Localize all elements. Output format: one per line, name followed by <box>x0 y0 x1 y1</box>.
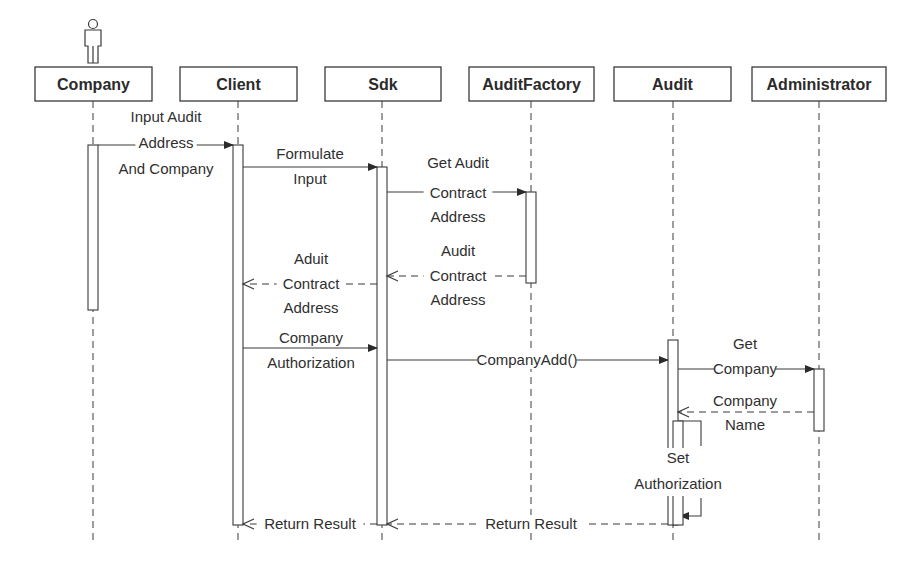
message-m6: CompanyAuthorization <box>243 329 377 371</box>
participant-label: Sdk <box>368 76 397 93</box>
activation-bar-client <box>233 145 243 525</box>
message-m8: GetCompany <box>678 335 814 378</box>
sequence-diagram: CompanyClientSdkAuditFactoryAuditAdminis… <box>0 0 924 572</box>
message-m10: SetAuthorization <box>620 421 740 525</box>
participant-company: Company <box>35 67 152 101</box>
message-label: Return Result <box>264 515 357 532</box>
message-label: Address <box>430 208 485 225</box>
message-m9: CompanyName <box>678 392 814 433</box>
activation-bar-sdk <box>377 167 387 525</box>
participant-label: AuditFactory <box>482 76 581 93</box>
participant-label: Client <box>216 76 261 93</box>
message-m3: Get AuditContractAddress <box>387 154 526 225</box>
message-label: Company <box>713 392 778 409</box>
participant-label: Company <box>57 76 130 93</box>
message-m12: Return Result <box>243 515 377 533</box>
message-m2: FormulateInput <box>243 145 377 187</box>
message-label: Set <box>667 449 690 466</box>
message-label: Address <box>138 134 193 151</box>
message-label: Address <box>283 299 338 316</box>
message-label: Contract <box>430 267 488 284</box>
message-label: Formulate <box>276 145 344 162</box>
message-label: Name <box>725 416 765 433</box>
message-label: CompanyAdd() <box>477 351 578 368</box>
message-m4: AuditContractAddress <box>387 242 526 308</box>
message-m5: AduitContractAddress <box>243 250 377 316</box>
message-label: Contract <box>430 184 488 201</box>
message-label: Aduit <box>294 250 329 267</box>
message-label: Return Result <box>485 515 578 532</box>
actor-icon <box>85 20 101 64</box>
participant-label: Administrator <box>767 76 872 93</box>
message-m11: Return Result <box>387 515 668 533</box>
message-label: Address <box>430 291 485 308</box>
participant-client: Client <box>180 67 297 101</box>
participants: CompanyClientSdkAuditFactoryAuditAdminis… <box>35 67 886 101</box>
activation-bar-administrator <box>814 369 824 431</box>
message-label: Authorization <box>634 475 722 492</box>
participant-administrator: Administrator <box>752 67 886 101</box>
message-m7: CompanyAdd() <box>387 351 668 369</box>
participant-audit: Audit <box>614 67 731 101</box>
message-label: And Company <box>118 160 214 177</box>
messages: Input AuditAddressAnd CompanyFormulateIn… <box>98 108 814 533</box>
message-label: Company <box>713 360 778 377</box>
message-label: Audit <box>441 242 476 259</box>
activation-bar-company <box>88 145 98 310</box>
message-label: Input Audit <box>131 108 203 125</box>
activation-bar-auditfactory <box>526 192 536 283</box>
message-label: Get <box>733 335 758 352</box>
participant-auditfactory: AuditFactory <box>469 67 594 101</box>
message-m1: Input AuditAddressAnd Company <box>98 108 233 177</box>
participant-label: Audit <box>652 76 694 93</box>
message-label: Contract <box>283 275 341 292</box>
participant-sdk: Sdk <box>325 67 441 101</box>
message-label: Company <box>279 329 344 346</box>
message-label: Get Audit <box>427 154 490 171</box>
message-label: Input <box>293 170 327 187</box>
message-label: Authorization <box>267 354 355 371</box>
